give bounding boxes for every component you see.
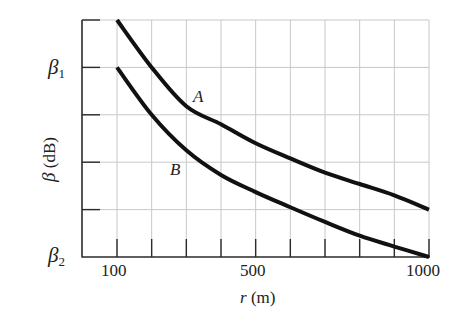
x-axis-unit: (m) <box>247 288 276 307</box>
x-tick-label-1000: 1000 <box>406 261 440 281</box>
y-tick-label-beta1: β1 <box>48 55 65 82</box>
curves <box>117 20 429 257</box>
x-tick-label-500: 500 <box>240 261 266 281</box>
chart-plot-area <box>0 0 472 322</box>
y-tick-label-beta2: β2 <box>48 243 65 270</box>
curve-label-a: A <box>193 87 203 107</box>
x-tick-label-100: 100 <box>101 261 127 281</box>
beta1-symbol: β <box>48 55 58 79</box>
grid-lines <box>82 20 429 257</box>
x-axis-symbol: r <box>240 288 247 307</box>
beta1-subscript: 1 <box>58 66 65 81</box>
beta2-symbol: β <box>48 243 58 267</box>
beta2-subscript: 2 <box>58 254 65 269</box>
x-axis-label: r (m) <box>240 288 275 308</box>
y-axis-unit: (dB) <box>40 137 59 172</box>
curve-label-b: B <box>170 160 180 180</box>
y-axis-symbol: β <box>38 173 59 182</box>
y-axis-label: β (dB) <box>38 137 60 182</box>
